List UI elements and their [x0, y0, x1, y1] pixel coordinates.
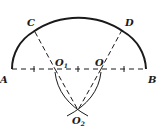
- label-o2: O2: [72, 115, 85, 127]
- line-o-o2: [78, 69, 101, 110]
- line-d-o: [101, 30, 122, 69]
- geometry-diagram: A B C D O O1 O2: [0, 0, 162, 135]
- label-c: C: [27, 17, 35, 28]
- label-b: B: [147, 74, 156, 85]
- line-c-o1: [35, 32, 55, 69]
- line-o1-o2: [55, 69, 78, 110]
- label-o: O: [95, 57, 104, 68]
- diagram-svg: A B C D O O1 O2: [0, 0, 162, 135]
- label-o1: O1: [55, 57, 68, 69]
- label-d: D: [124, 17, 134, 28]
- label-a: A: [0, 74, 8, 85]
